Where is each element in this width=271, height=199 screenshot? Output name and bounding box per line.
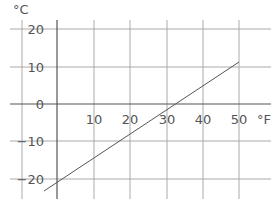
y-axis-unit-label: °C xyxy=(13,2,29,17)
x-tick-50: 50 xyxy=(231,112,248,127)
temperature-conversion-chart: °C 20 10 0 −10 −20 10 20 30 40 50 °F xyxy=(0,0,271,199)
x-tick-30: 30 xyxy=(159,112,176,127)
y-tick-0: 0 xyxy=(36,97,44,112)
y-tick-minus-20: −20 xyxy=(17,172,44,187)
y-tick-20: 20 xyxy=(27,22,44,37)
vertical-gridlines xyxy=(22,20,239,199)
y-tick-minus-10: −10 xyxy=(17,134,44,149)
y-tick-10: 10 xyxy=(27,60,44,75)
x-tick-10: 10 xyxy=(86,112,103,127)
x-tick-20: 20 xyxy=(122,112,139,127)
x-axis-unit-label: °F xyxy=(257,112,271,127)
x-tick-40: 40 xyxy=(195,112,212,127)
